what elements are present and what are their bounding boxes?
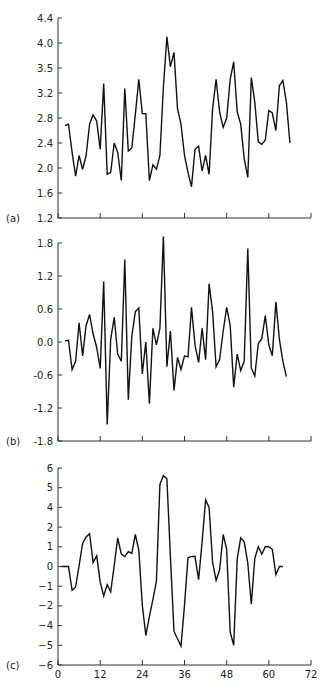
- y-tick-label: 4.4: [37, 13, 53, 24]
- y-tick-label: 1.2: [37, 271, 53, 282]
- y-tick-label: 2: [47, 522, 53, 533]
- data-series-line: [65, 37, 290, 187]
- figure: 4.44.03.53.22.82.42.01.61.2(a) 1.81.20.6…: [0, 0, 331, 691]
- y-tick-label: -1.8: [33, 436, 53, 447]
- y-tick-label: 1.8: [37, 238, 53, 249]
- y-tick-label: 1: [47, 541, 53, 552]
- y-tick-label: 5: [47, 482, 53, 493]
- panel-a-chart: 4.44.03.53.22.82.42.01.61.2(a): [6, 13, 311, 224]
- y-tick-label: 6: [47, 463, 53, 474]
- x-tick-label: 12: [94, 669, 107, 680]
- y-tick-label: −5: [38, 640, 53, 651]
- y-tick-label: 4.0: [37, 38, 53, 49]
- y-tick-label: −4: [38, 620, 53, 631]
- data-series-line: [62, 475, 283, 646]
- y-tick-label: -0.6: [33, 370, 53, 381]
- y-tick-label: 2.4: [37, 138, 53, 149]
- x-tick-label: 36: [178, 669, 191, 680]
- y-tick-label: 0: [47, 561, 53, 572]
- y-tick-label: -1.2: [33, 403, 53, 414]
- panel-label: (c): [6, 660, 19, 671]
- y-tick-label: 3.2: [37, 88, 53, 99]
- panel-c-chart: 654210−1−2−4−5−60122436486072(c): [6, 463, 317, 681]
- y-tick-label: 0.0: [37, 337, 53, 348]
- y-tick-label: 2.0: [37, 163, 53, 174]
- y-tick-label: 0.6: [37, 304, 53, 315]
- x-tick-label: 60: [262, 669, 275, 680]
- y-tick-label: −1: [38, 581, 53, 592]
- y-tick-label: 3.5: [37, 63, 53, 74]
- x-tick-label: 48: [220, 669, 233, 680]
- y-tick-label: 1.2: [37, 213, 53, 224]
- panel-label: (a): [6, 213, 20, 224]
- y-tick-label: 2.8: [37, 113, 53, 124]
- y-tick-label: 1.6: [37, 188, 53, 199]
- panel-label: (b): [6, 436, 20, 447]
- y-tick-label: −6: [38, 660, 53, 671]
- panel-b-chart: 1.81.20.60.0-0.6-1.2-1.8(b): [6, 236, 311, 446]
- x-tick-label: 72: [305, 669, 318, 680]
- y-tick-label: 4: [47, 502, 53, 513]
- x-tick-label: 24: [136, 669, 149, 680]
- x-tick-label: 0: [55, 669, 61, 680]
- data-series-line: [65, 236, 286, 424]
- y-tick-label: −2: [38, 600, 53, 611]
